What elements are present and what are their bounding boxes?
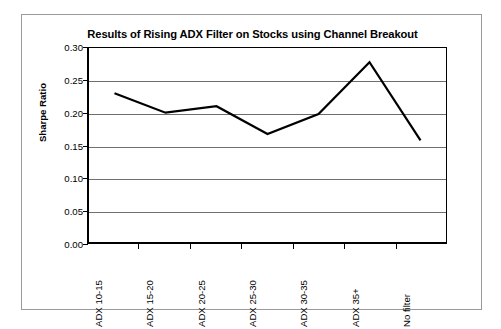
x-axis-category-label-7: No filter (414, 251, 428, 327)
x-axis-tick-mark (396, 244, 397, 249)
y-axis-tick-mark (83, 178, 88, 179)
y-axis-tick-mark (83, 211, 88, 212)
x-axis-category-label-5: ADX 30-35 (311, 251, 325, 327)
y-axis-tick-mark (83, 80, 88, 81)
x-axis-category-label-text: ADX 35+ (349, 251, 363, 327)
x-axis-category-label-text: ADX 30-35 (297, 251, 311, 327)
x-axis-tick-mark (241, 244, 242, 249)
chart-title: Results of Rising ADX Filter on Stocks u… (22, 28, 483, 40)
x-axis-tick-mark (138, 244, 139, 249)
y-axis-tick-label: 0.10 (49, 173, 83, 184)
y-axis-tick-label: 0.15 (49, 140, 83, 151)
y-axis-tick-label: 0.00 (49, 239, 83, 250)
x-axis-category-label-2: ADX 15-20 (157, 251, 171, 327)
x-axis-category-label-1: ADX 10-15 (106, 251, 120, 327)
x-axis-category-label-text: ADX 15-20 (143, 251, 157, 327)
x-axis-tick-mark (344, 244, 345, 249)
x-axis-category-label-4: ADX 25-30 (260, 251, 274, 327)
y-axis-tick-label: 0.20 (49, 107, 83, 118)
y-axis-tick-mark (83, 47, 88, 48)
x-axis-category-label-text: ADX 20-25 (195, 251, 209, 327)
x-axis-category-label-text: ADX 10-15 (92, 251, 106, 327)
chart-frame: Results of Rising ADX Filter on Stocks u… (21, 14, 482, 310)
plot-area (87, 47, 447, 244)
x-axis-tick-mark (293, 244, 294, 249)
x-axis-category-label-text: No filter (400, 251, 414, 327)
y-axis-tick-label: 0.05 (49, 206, 83, 217)
y-axis-tick-labels: 0.000.050.100.150.200.250.30 (44, 47, 83, 244)
x-axis-category-label-6: ADX 35+ (363, 251, 377, 327)
y-axis-tick-mark (83, 244, 88, 245)
x-axis-tick-mark (190, 244, 191, 249)
x-axis-category-label-text: ADX 25-30 (246, 251, 260, 327)
chart-screenshot: Results of Rising ADX Filter on Stocks u… (0, 0, 501, 329)
y-axis-tick-label: 0.25 (49, 74, 83, 85)
y-axis-tick-label: 0.30 (49, 42, 83, 53)
y-axis-tick-mark (83, 146, 88, 147)
series-line-sharpe-ratio (89, 48, 446, 242)
x-axis-category-label-3: ADX 20-25 (209, 251, 223, 327)
y-axis-tick-mark (83, 113, 88, 114)
